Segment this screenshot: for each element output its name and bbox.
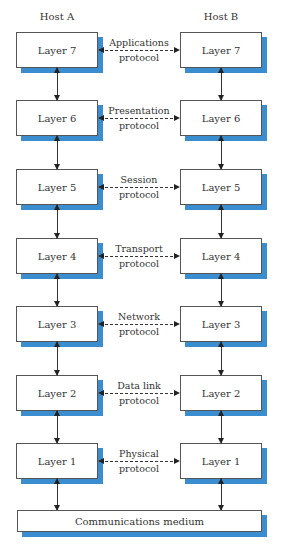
protocol-name: Presentation	[107, 105, 170, 117]
protocol-label-5: Session protocol	[98, 174, 180, 201]
vertical-arrow-b-6-5	[221, 136, 222, 169]
host-b-layer-5: Layer 5	[180, 169, 262, 205]
vertical-arrow-a-4-3	[57, 274, 58, 306]
protocol-word: protocol	[98, 326, 180, 338]
protocol-name: Network	[117, 311, 161, 323]
protocol-name: Session	[120, 174, 159, 186]
protocol-label-3: Network protocol	[98, 311, 180, 338]
protocol-name: Physical	[118, 448, 160, 460]
vertical-arrow-b-5-4	[221, 205, 222, 238]
protocol-name: Transport	[114, 243, 164, 255]
protocol-name: Applications	[108, 37, 170, 49]
host-b-layer-1: Layer 1	[180, 443, 262, 479]
vertical-arrow-a-2-1	[57, 411, 58, 443]
vertical-arrow-a-7-6	[57, 68, 58, 100]
vertical-arrow-b-1-medium	[221, 479, 222, 510]
host-a-layer-4: Layer 4	[16, 238, 98, 274]
host-a-layer-6: Layer 6	[16, 100, 98, 136]
vertical-arrow-a-5-4	[57, 205, 58, 238]
vertical-arrow-b-7-6	[221, 68, 222, 100]
vertical-arrow-b-4-3	[221, 274, 222, 306]
protocol-label-7: Applications protocol	[98, 37, 180, 64]
protocol-word: protocol	[98, 258, 180, 270]
host-b-layer-7: Layer 7	[180, 32, 262, 68]
protocol-label-6: Presentation protocol	[98, 105, 180, 132]
vertical-arrow-a-3-2	[57, 342, 58, 375]
host-b-layer-2: Layer 2	[180, 375, 262, 411]
host-a-layer-5: Layer 5	[16, 169, 98, 205]
host-a-label: Host A	[16, 11, 98, 22]
protocol-word: protocol	[98, 395, 180, 407]
host-b-layer-3: Layer 3	[180, 306, 262, 342]
vertical-arrow-a-6-5	[57, 136, 58, 169]
protocol-word: protocol	[98, 120, 180, 132]
protocol-word: protocol	[98, 463, 180, 475]
host-a-layer-2: Layer 2	[16, 375, 98, 411]
host-b-label: Host B	[180, 11, 262, 22]
protocol-label-2: Data link protocol	[98, 380, 180, 407]
host-a-layer-7: Layer 7	[16, 32, 98, 68]
vertical-arrow-b-3-2	[221, 342, 222, 375]
host-b-layer-6: Layer 6	[180, 100, 262, 136]
host-a-layer-1: Layer 1	[16, 443, 98, 479]
protocol-word: protocol	[98, 189, 180, 201]
host-b-layer-4: Layer 4	[180, 238, 262, 274]
vertical-arrow-b-2-1	[221, 411, 222, 443]
host-a-layer-3: Layer 3	[16, 306, 98, 342]
communications-medium: Communications medium	[17, 510, 262, 532]
protocol-word: protocol	[98, 52, 180, 64]
vertical-arrow-a-1-medium	[57, 479, 58, 510]
protocol-name: Data link	[116, 380, 162, 392]
protocol-label-1: Physical protocol	[98, 448, 180, 475]
protocol-label-4: Transport protocol	[98, 243, 180, 270]
